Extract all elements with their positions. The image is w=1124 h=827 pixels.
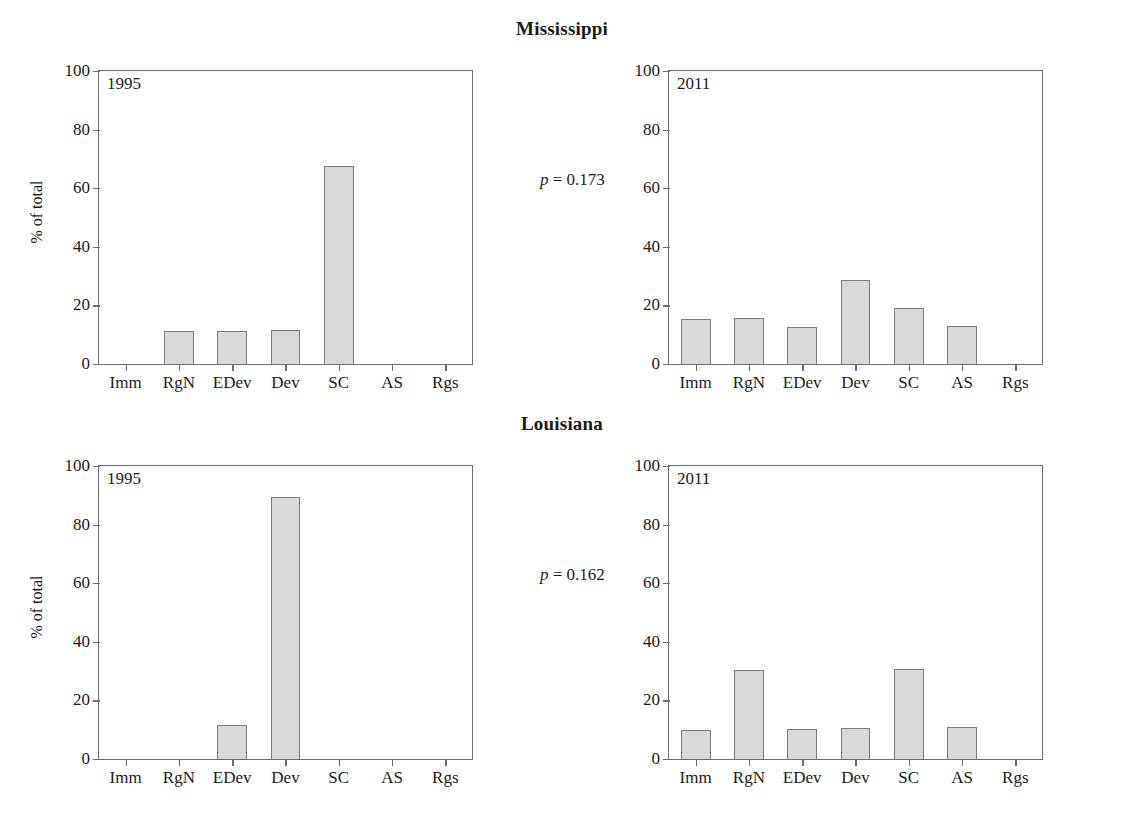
p-symbol: p xyxy=(540,565,549,584)
x-axis-tick xyxy=(312,759,365,766)
x-axis-tick xyxy=(99,364,152,371)
bar-slot xyxy=(935,466,988,759)
chart-row-mississippi: Mississippi % of total 1995 100806040200… xyxy=(0,18,1124,418)
x-axis-tick-label: SC xyxy=(312,768,365,788)
bar-rgn xyxy=(164,331,194,364)
bar-slot xyxy=(935,71,988,364)
bar-edev xyxy=(787,327,817,364)
x-axis-tick xyxy=(206,759,259,766)
x-axis-tick-label: SC xyxy=(882,373,935,393)
y-axis-tick-label: 40 xyxy=(643,237,669,257)
bar-slot xyxy=(206,71,259,364)
chart-row-louisiana: Louisiana % of total 1995 100806040200 I… xyxy=(0,413,1124,813)
x-axis-labels: ImmRgNEDevDevSCASRgs xyxy=(669,768,1042,788)
bar-slot xyxy=(989,466,1042,759)
x-axis-tick-label: RgN xyxy=(152,768,205,788)
plot-area: 1995 100806040200 ImmRgNEDevDevSCASRgs xyxy=(98,70,473,365)
p-value-text: = 0.173 xyxy=(549,170,605,189)
chart-panel-mississippi-2011: 2011 100806040200 ImmRgNEDevDevSCASRgs xyxy=(600,62,1070,402)
x-axis-tick-label: AS xyxy=(365,373,418,393)
y-axis-tick-label: 0 xyxy=(652,749,670,769)
x-axis-tick-label: EDev xyxy=(206,768,259,788)
bar-slot xyxy=(152,466,205,759)
x-axis-tick-label: Dev xyxy=(259,768,312,788)
x-axis-ticks xyxy=(99,364,472,371)
x-axis-tick xyxy=(419,759,472,766)
bar-series xyxy=(99,71,472,364)
x-axis-tick xyxy=(882,759,935,766)
plot-area: 2011 100806040200 ImmRgNEDevDevSCASRgs xyxy=(668,70,1043,365)
bar-dev xyxy=(841,728,871,759)
x-axis-tick xyxy=(365,759,418,766)
bar-slot xyxy=(419,466,472,759)
bar-series xyxy=(669,71,1042,364)
y-axis-tick-label: 40 xyxy=(73,237,99,257)
x-axis-labels: ImmRgNEDevDevSCASRgs xyxy=(99,373,472,393)
bar-slot xyxy=(829,466,882,759)
bar-rgn xyxy=(734,670,764,759)
x-axis-tick xyxy=(829,364,882,371)
y-axis-tick-label: 100 xyxy=(65,61,100,81)
y-axis-label: % of total xyxy=(28,457,46,757)
bar-as xyxy=(947,727,977,759)
y-axis-tick-label: 80 xyxy=(73,515,99,535)
x-axis-tick xyxy=(722,759,775,766)
x-axis-tick-label: Rgs xyxy=(419,768,472,788)
x-axis-tick-label: RgN xyxy=(722,373,775,393)
y-axis-tick-label: 40 xyxy=(643,632,669,652)
x-axis-tick-label: Imm xyxy=(99,373,152,393)
chart-panel-mississippi-1995: % of total 1995 100806040200 ImmRgNEDevD… xyxy=(30,62,500,402)
bar-edev xyxy=(217,331,247,364)
x-axis-tick-label: Dev xyxy=(259,373,312,393)
x-axis-tick xyxy=(669,759,722,766)
x-axis-tick xyxy=(882,364,935,371)
y-axis-tick-label: 100 xyxy=(65,456,100,476)
x-axis-tick-label: EDev xyxy=(206,373,259,393)
x-axis-ticks xyxy=(99,759,472,766)
x-axis-tick xyxy=(99,759,152,766)
bar-slot xyxy=(365,466,418,759)
row-title: Louisiana xyxy=(0,413,1124,435)
y-axis-tick-label: 40 xyxy=(73,632,99,652)
bar-edev xyxy=(217,725,247,759)
bar-slot xyxy=(776,466,829,759)
bar-dev xyxy=(841,280,871,364)
y-axis-tick-label: 0 xyxy=(652,354,670,374)
x-axis-tick xyxy=(259,759,312,766)
bar-slot xyxy=(669,71,722,364)
x-axis-tick xyxy=(989,759,1042,766)
bar-slot xyxy=(829,71,882,364)
x-axis-tick xyxy=(776,759,829,766)
bar-slot xyxy=(722,466,775,759)
x-axis-tick-label: Dev xyxy=(829,373,882,393)
x-axis-tick xyxy=(152,759,205,766)
x-axis-labels: ImmRgNEDevDevSCASRgs xyxy=(99,768,472,788)
bar-sc xyxy=(894,308,924,364)
p-value-text: = 0.162 xyxy=(549,565,605,584)
chart-panel-louisiana-2011: 2011 100806040200 ImmRgNEDevDevSCASRgs xyxy=(600,457,1070,797)
p-symbol: p xyxy=(540,170,549,189)
y-axis-tick-label: 60 xyxy=(643,573,669,593)
bar-slot xyxy=(882,71,935,364)
x-axis-tick xyxy=(829,759,882,766)
x-axis-tick-label: SC xyxy=(882,768,935,788)
x-axis-tick xyxy=(259,364,312,371)
bar-slot xyxy=(882,466,935,759)
x-axis-tick-label: AS xyxy=(935,768,988,788)
x-axis-ticks xyxy=(669,759,1042,766)
bar-slot xyxy=(419,71,472,364)
bar-slot xyxy=(722,71,775,364)
x-axis-tick xyxy=(312,364,365,371)
x-axis-ticks xyxy=(669,364,1042,371)
x-axis-tick-label: Imm xyxy=(669,373,722,393)
y-axis-tick-label: 0 xyxy=(82,749,100,769)
bar-slot xyxy=(99,466,152,759)
y-axis-tick-label: 60 xyxy=(643,178,669,198)
x-axis-tick-label: Rgs xyxy=(989,373,1042,393)
x-axis-tick xyxy=(935,759,988,766)
x-axis-tick-label: EDev xyxy=(776,768,829,788)
bar-edev xyxy=(787,729,817,759)
bar-slot xyxy=(669,466,722,759)
bar-slot xyxy=(99,71,152,364)
x-axis-tick-label: Rgs xyxy=(419,373,472,393)
